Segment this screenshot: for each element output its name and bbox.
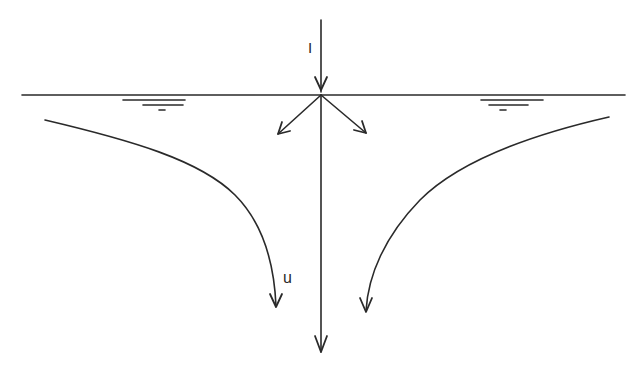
diagram-canvas — [0, 0, 643, 366]
surface-symbol-left-icon — [123, 100, 185, 110]
incident-arrow-icon — [315, 20, 327, 92]
vertical-arrow-icon — [315, 95, 327, 352]
surface-symbol-right-icon — [481, 100, 543, 110]
incident-label: I — [308, 40, 312, 55]
streamline-left-icon — [45, 120, 282, 307]
diverging-arrow-left-icon — [278, 95, 321, 134]
streamline-label: u — [283, 270, 292, 286]
diverging-arrow-right-icon — [321, 95, 366, 133]
streamline-right-icon — [360, 117, 609, 312]
